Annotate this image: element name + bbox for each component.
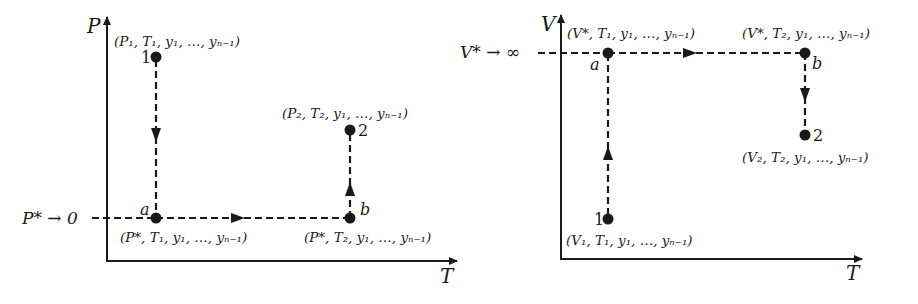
point-b-name: b xyxy=(812,54,822,73)
p-star-limit-label: P* → 0 xyxy=(21,208,78,228)
point-2-dot xyxy=(345,125,356,136)
left-diagram: P T P* → 0 1 a b 2 (P₁, T₁, y₁, …, yₙ₋₁)… xyxy=(21,14,457,288)
point-1-name: 1 xyxy=(141,48,151,67)
point-a-coords: (P*, T₁, y₁, …, yₙ₋₁) xyxy=(120,229,247,245)
point-a-dot xyxy=(603,48,614,59)
point-a-dot xyxy=(151,213,162,224)
point-1-name: 1 xyxy=(594,210,604,229)
arrow-down-icon xyxy=(151,128,161,142)
point-b-dot xyxy=(345,213,356,224)
t-axis-label-left: T xyxy=(440,264,455,288)
point-b-dot xyxy=(800,48,811,59)
point-a-coords: (V*, T₁, y₁, …, yₙ₋₁) xyxy=(567,25,695,41)
v-axis-label: V xyxy=(541,12,558,36)
point-b-coords: (P*, T₂, y₁, …, yₙ₋₁) xyxy=(304,229,431,245)
t-axis-label-right: T xyxy=(846,261,861,285)
point-a-name: a xyxy=(590,55,600,74)
point-2-name: 2 xyxy=(358,121,368,140)
right-diagram: V T V* → ∞ a b 2 1 (V*, T₁, y₁, …, yₙ₋₁)… xyxy=(460,12,870,285)
point-2-coords: (P₂, T₂, y₁, …, yₙ₋₁) xyxy=(282,105,408,121)
point-2-coords: (V₂, T₂, y₁, …, yₙ₋₁) xyxy=(742,149,869,165)
point-1-coords: (V₁, T₁, y₁, …, yₙ₋₁) xyxy=(566,232,693,248)
arrow-right-icon xyxy=(231,213,245,223)
point-b-name: b xyxy=(360,200,370,219)
v-star-limit-label: V* → ∞ xyxy=(460,42,520,62)
arrow-right-icon xyxy=(683,48,697,58)
point-2-dot xyxy=(800,130,811,141)
point-1-dot xyxy=(151,52,162,63)
thermo-path-diagrams: P T P* → 0 1 a b 2 (P₁, T₁, y₁, …, yₙ₋₁)… xyxy=(0,0,918,304)
arrow-up-icon xyxy=(603,146,613,160)
point-b-coords: (V*, T₂, y₁, …, yₙ₋₁) xyxy=(742,25,870,41)
point-1-coords: (P₁, T₁, y₁, …, yₙ₋₁) xyxy=(114,33,240,49)
point-2-name: 2 xyxy=(813,126,823,145)
p-axis-label: P xyxy=(86,14,101,38)
arrow-down-icon xyxy=(800,88,810,102)
arrow-up-icon xyxy=(345,182,355,196)
point-a-name: a xyxy=(140,200,150,219)
